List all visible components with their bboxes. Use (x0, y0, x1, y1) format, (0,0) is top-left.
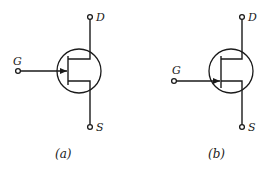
drain-lead (221, 19, 242, 59)
source-label: S (248, 121, 256, 134)
drain-label: D (95, 11, 105, 24)
source-lead (68, 81, 90, 125)
drain-lead (68, 19, 90, 59)
gate-terminal (172, 79, 177, 84)
transistor-body-circle (209, 49, 253, 93)
panel-a: D S G (a) (13, 11, 105, 161)
gate-label: G (172, 64, 181, 77)
source-terminal (88, 125, 93, 130)
gate-terminal (16, 69, 21, 74)
gate-label: G (13, 55, 22, 68)
drain-terminal (88, 15, 93, 20)
drain-terminal (240, 15, 245, 20)
caption-b: (b) (208, 147, 225, 161)
caption-a: (a) (55, 147, 72, 161)
source-terminal (240, 125, 245, 130)
jfet-symbols-figure: D S G (a) D S G (b) (0, 0, 271, 170)
panel-b: D S G (b) (172, 11, 257, 161)
drain-label: D (247, 11, 257, 24)
source-lead (221, 81, 242, 125)
source-label: S (96, 121, 104, 134)
